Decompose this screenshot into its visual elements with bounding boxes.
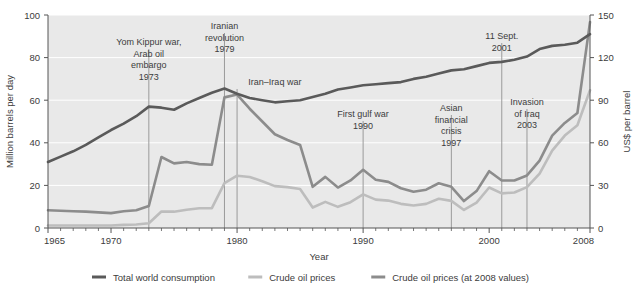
annotation-text-line: Iran–Iraq war [248,77,301,87]
annotation-text-line: embargo [131,60,167,70]
legend-item-2[interactable]: Crude oil prices (at 2008 values) [371,272,529,283]
y-tick-label-right: 60 [598,137,609,148]
annotation-text-line: Invasion [510,97,544,107]
annotation-text-line: 1979 [214,44,234,54]
annotation-text-line: 11 Sept. [485,31,518,41]
annotation-text-line: Arab oil [134,49,165,59]
y-tick-label-left: 80 [29,52,40,63]
legend-label-0: Total world consumption [113,272,215,283]
legend-group: Total world consumptionCrude oil pricesC… [92,272,529,283]
annotation-text-line: 2001 [492,43,512,53]
x-tick-label: 1970 [100,235,121,246]
x-tick-label: 1990 [353,235,374,246]
x-tick-label: 1980 [226,235,247,246]
chart-container: 0204060801000306090120150196519701980199… [0,0,641,294]
annotation-text-line: revolution [205,33,244,43]
annotation-text-line: crisis [441,126,462,136]
annotation-text-line: of Iraq [514,109,540,119]
annotation-text-line: 1997 [441,138,461,148]
annotation-text-line: 2003 [517,120,537,130]
x-tick-label: 1965 [44,235,65,246]
y-axis-label-left: Million barrels per day [4,75,15,168]
y-tick-label-left: 40 [29,137,40,148]
annotation-text-line: 1973 [139,72,159,82]
y-axis-label-right: US$ per barrel [621,91,632,153]
y-tick-label-right: 0 [598,223,603,234]
annotation-text-line: Iranian [211,21,239,31]
x-tick-label: 2000 [479,235,500,246]
annotation-text-line: Asian [440,103,463,113]
legend-label-1: Crude oil prices [269,272,335,283]
y-tick-label-right: 120 [598,52,614,63]
annotation-text-line: First gulf war [337,109,389,119]
x-axis-label: Year [309,251,328,262]
y-tick-label-left: 0 [35,223,40,234]
legend-item-0[interactable]: Total world consumption [92,272,215,283]
annotation-text-line: Yom Kippur war, [116,37,181,47]
annotation-text-line: financial [435,115,468,125]
y-tick-label-right: 150 [598,10,614,21]
x-tick-label: 2008 [573,235,594,246]
y-tick-label-right: 30 [598,180,609,191]
legend-item-1[interactable]: Crude oil prices [248,272,335,283]
y-tick-label-left: 60 [29,95,40,106]
y-tick-label-right: 90 [598,95,609,106]
annotation-text-line: 1990 [353,121,373,131]
y-tick-label-left: 100 [24,10,40,21]
annotation-2: Iran–Iraq war [248,77,301,87]
legend-label-2: Crude oil prices (at 2008 values) [392,272,529,283]
y-tick-label-left: 20 [29,180,40,191]
oil-chart: 0204060801000306090120150196519701980199… [0,0,641,294]
